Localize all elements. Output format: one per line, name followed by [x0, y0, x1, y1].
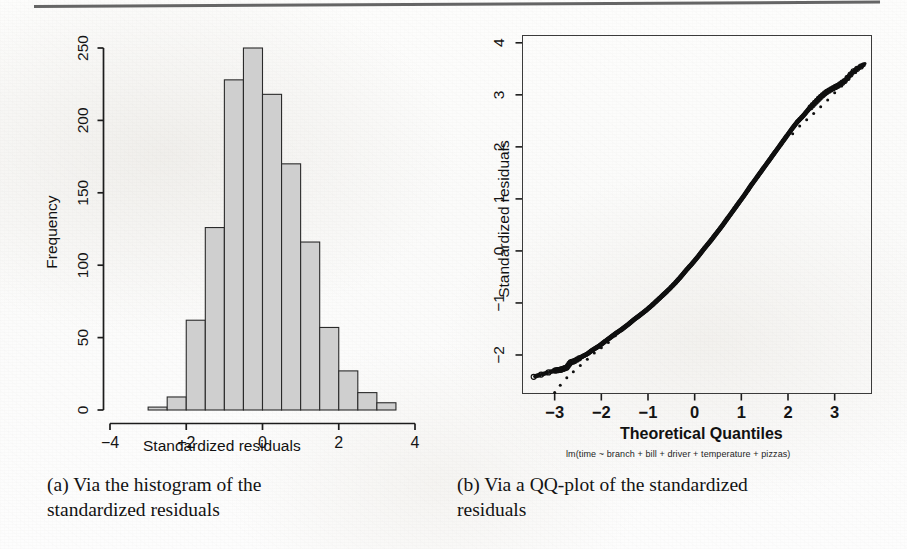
- qq-reference-dot: [826, 99, 829, 102]
- qq-reference-dot: [798, 125, 801, 128]
- histogram-bar: [224, 80, 243, 410]
- qq-reference-dot: [621, 329, 624, 332]
- qq-reference-dot: [553, 391, 556, 394]
- qq-reference-dot: [833, 91, 836, 94]
- qq-reference-dot: [607, 341, 610, 344]
- histogram-x-axis-label: Standardized residuals: [143, 437, 301, 455]
- y-tick-label: 0: [74, 405, 91, 414]
- qq-reference-dot: [593, 351, 596, 354]
- x-tick-label: 2: [334, 434, 343, 451]
- x-tick-label: −2: [592, 403, 611, 421]
- y-tick-label: 250: [74, 35, 91, 61]
- qq-reference-dot: [614, 334, 617, 337]
- caption-b-line-1: (b) Via a QQ-plot of the standardized: [457, 472, 877, 497]
- caption-panel-b: (b) Via a QQ-plot of the standardized re…: [457, 472, 877, 522]
- histogram-canvas: 050100150200250−4−2024: [0, 0, 453, 465]
- caption-b-line-2: residuals: [457, 497, 877, 522]
- qqplot-y-axis-label: Standardized residuals: [495, 124, 513, 314]
- qq-reference-dot: [840, 84, 843, 87]
- histogram-bar: [243, 48, 262, 410]
- histogram-bar: [358, 393, 377, 410]
- qqplot-data-points: [531, 62, 866, 379]
- panel-a-histogram: 050100150200250−4−2024 Frequency Standar…: [0, 0, 453, 465]
- histogram-bar: [148, 407, 167, 410]
- x-tick-label: 4: [411, 434, 420, 451]
- caption-a-line-2: standardized residuals: [47, 497, 413, 522]
- qq-reference-dot: [586, 358, 589, 361]
- qq-reference-dot: [864, 62, 867, 65]
- qqplot-model-formula-subtitle: lm(time ~ branch + bill + driver + tempe…: [566, 449, 790, 459]
- x-tick-label: 2: [783, 403, 792, 421]
- qq-reference-dot: [812, 112, 815, 115]
- histogram-bar: [205, 228, 224, 410]
- histogram-y-axis: 050100150200250: [74, 35, 104, 415]
- qq-reference-dot: [600, 346, 603, 349]
- y-tick-label: 50: [74, 329, 91, 347]
- histogram-bar: [263, 94, 282, 410]
- caption-panel-a: (a) Via the histogram of the standardize…: [47, 472, 413, 522]
- qq-reference-dot: [572, 370, 575, 373]
- histogram-bar: [320, 327, 339, 410]
- qqplot-x-axis-label: Theoretical Quantiles: [620, 425, 783, 443]
- qqplot-x-axis: −3−2−10123: [545, 394, 839, 421]
- qq-reference-dot: [847, 78, 850, 81]
- y-tick-label: 100: [74, 252, 91, 278]
- x-tick-label: 1: [737, 403, 746, 421]
- y-tick-label: −2: [490, 346, 507, 364]
- y-tick-label: 200: [74, 107, 91, 133]
- histogram-bar: [377, 403, 396, 410]
- x-tick-label: 3: [830, 403, 839, 421]
- x-tick-label: −4: [101, 434, 119, 451]
- qqplot-canvas: −2−101234−3−2−10123: [453, 0, 907, 465]
- histogram-bar: [339, 371, 358, 410]
- qq-reference-dot: [791, 132, 794, 135]
- x-tick-label: −1: [639, 403, 658, 421]
- qq-reference-dot: [579, 364, 582, 367]
- y-tick-label: 4: [490, 38, 507, 47]
- qq-reference-dot: [565, 376, 568, 379]
- panel-b-qqplot: −2−101234−3−2−10123 Standardized residua…: [453, 0, 907, 465]
- y-tick-label: 3: [490, 91, 507, 100]
- y-tick-label: 150: [74, 179, 91, 205]
- histogram-bar: [167, 397, 186, 410]
- histogram-bar: [186, 320, 205, 410]
- qq-reference-dot: [805, 118, 808, 121]
- histogram-bars: [148, 48, 396, 410]
- histogram-plot: 050100150200250−4−2024: [0, 0, 453, 465]
- qq-reference-dot: [854, 71, 857, 74]
- histogram-y-axis-label: Frequency: [43, 172, 61, 292]
- x-tick-label: 0: [690, 403, 699, 421]
- histogram-bar: [282, 164, 301, 410]
- qq-reference-dot: [559, 384, 562, 387]
- qq-reference-dot: [819, 105, 822, 108]
- x-tick-label: −3: [545, 403, 564, 421]
- histogram-bar: [301, 242, 320, 410]
- qq-reference-dot: [628, 322, 631, 325]
- caption-a-line-1: (a) Via the histogram of the: [47, 472, 413, 497]
